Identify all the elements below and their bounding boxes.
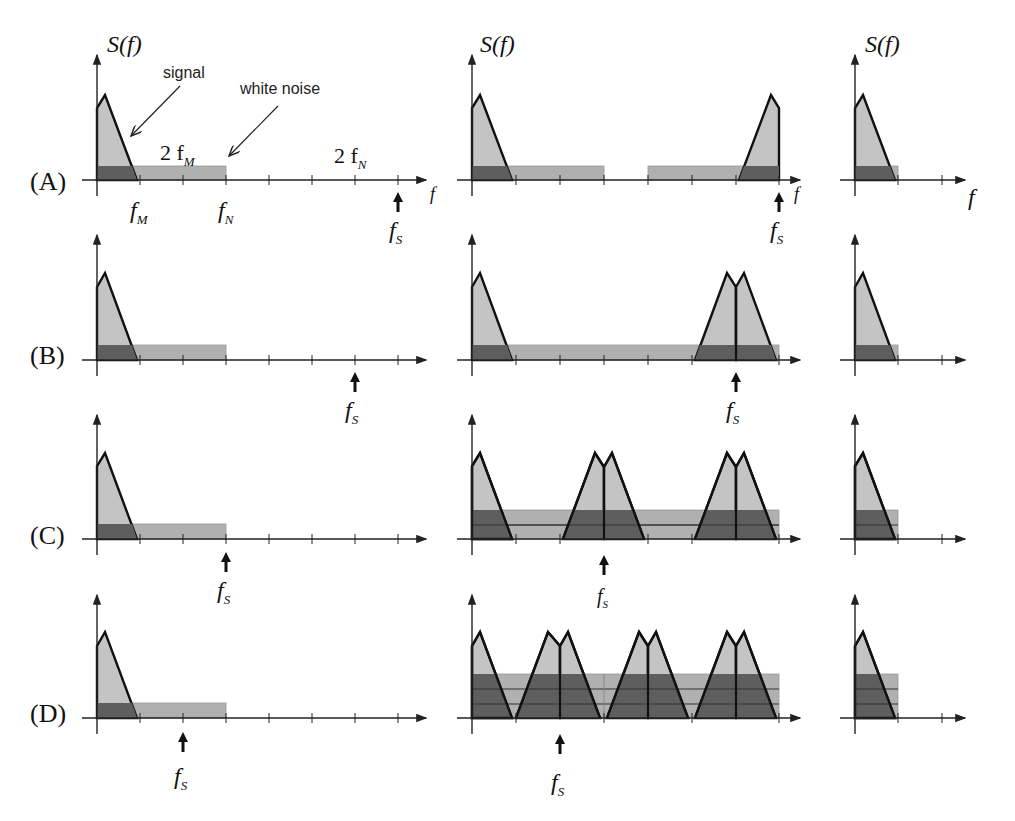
row-b-right-panel	[840, 235, 965, 376]
fs-label: fS	[217, 577, 231, 607]
row-label-b: (B)	[30, 341, 65, 370]
row-d-middle-panel: fS	[457, 595, 800, 799]
row-b: (B) fS	[30, 235, 965, 427]
row-label-a: (A)	[30, 167, 66, 196]
row-c-right-panel	[840, 415, 965, 555]
row-label-c: (C)	[30, 521, 65, 550]
noise-signal-overlap	[97, 703, 137, 718]
fs-arrow-icon	[178, 732, 188, 752]
fs-label: fS	[345, 397, 359, 427]
fs-label: fS	[389, 217, 403, 247]
fs-arrow-icon	[350, 372, 360, 392]
row-a-left-panel: S(f) signal white noise 2 fM 2 fN fM fN …	[82, 31, 438, 247]
fs-arrow-icon	[774, 192, 784, 212]
noise-signal-overlap	[855, 166, 895, 180]
row-d-left-panel: fS	[82, 595, 426, 793]
row-label-d: (D)	[30, 699, 66, 728]
fn-label: fN	[218, 197, 235, 227]
fs-arrow-icon	[393, 192, 403, 212]
row-b-left-panel: fS	[82, 235, 426, 427]
row-b-middle-panel: fS	[457, 235, 800, 427]
y-axis-label: S(f)	[107, 31, 142, 57]
fs-label: fS	[174, 763, 188, 793]
x-axis-label: f	[968, 184, 978, 210]
noise-signal-overlap	[855, 345, 895, 360]
fs-arrow-icon	[555, 734, 565, 754]
fs-arrow-icon	[221, 552, 231, 572]
y-axis-label: S(f)	[865, 31, 900, 57]
fm-label: fM	[130, 197, 149, 227]
sampling-noise-aliasing-diagram: (A) S(f) signal white noise 2 fM	[0, 0, 1015, 821]
fs-arrow-icon	[599, 555, 609, 575]
row-a-right-panel: S(f) f	[840, 31, 978, 210]
row-a-middle-panel: S(f) f fS	[457, 31, 802, 247]
fs-label: fS	[770, 217, 784, 247]
row-d-right-panel	[840, 595, 965, 734]
row-a: (A) S(f) signal white noise 2 fM	[30, 31, 978, 247]
row-c-left-panel: fS	[82, 415, 426, 607]
x-axis-label: f	[794, 184, 802, 204]
white-noise-annotation: white noise	[239, 80, 320, 97]
noise-pointer-arrow	[229, 106, 278, 156]
row-c: (C) fS	[30, 415, 965, 610]
noise-signal-overlap	[739, 166, 779, 180]
fs-label: fS	[597, 585, 609, 610]
row-c-middle-panel: fS	[457, 415, 800, 610]
noise-signal-overlap	[472, 345, 512, 360]
noise-signal-overlap	[97, 345, 137, 360]
fs-arrow-icon	[731, 372, 741, 392]
fs-label: fS	[726, 397, 740, 427]
noise-signal-overlap	[472, 166, 512, 180]
fs-label: fS	[551, 769, 565, 799]
noise-signal-overlap	[97, 166, 137, 180]
noise-signal-overlap	[97, 524, 137, 539]
y-axis-label: S(f)	[480, 31, 515, 57]
x-axis-label: f	[430, 184, 438, 204]
two-fm-label: 2 fM	[160, 140, 196, 169]
signal-annotation: signal	[163, 64, 205, 81]
signal-pointer-arrow	[131, 86, 180, 136]
row-d: (D) fS	[30, 595, 965, 799]
two-fn-label: 2 fN	[334, 143, 368, 172]
